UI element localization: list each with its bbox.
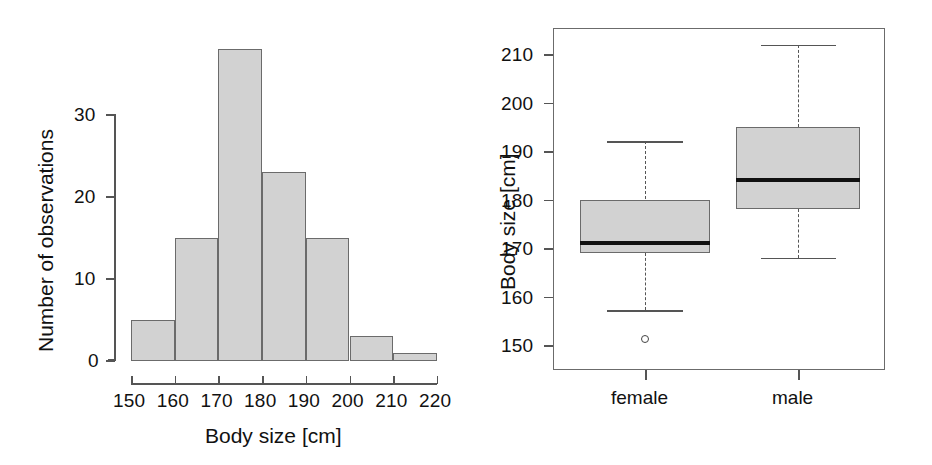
boxplot-y-tick-150 [544,345,553,347]
boxplot-x-tick-male [798,370,800,380]
histogram-x-tick-label-190: 190 [288,390,320,412]
boxplot-panel: Body size [cm] 150 160 170 180 190 200 2… [470,0,932,465]
histogram-bar-150-160 [131,320,175,361]
histogram-y-tick-label-20: 20 [74,186,96,208]
boxplot-female-outlier-point [641,335,649,343]
boxplot-y-tick-label-170: 170 [501,238,533,260]
boxplot-y-tick-190 [544,151,553,153]
histogram-y-tick-20 [106,196,115,198]
histogram-x-tick-190 [306,376,308,384]
boxplot-male-box [736,127,860,209]
histogram-x-tick-150 [131,376,133,384]
histogram-bar-180-190 [262,172,306,361]
histogram-x-tick-label-150: 150 [113,390,145,412]
two-panel-figure: Number of observations 0 10 20 30 [0,0,932,465]
boxplot-male-whisker-cap-upper [761,45,836,47]
histogram-bar-210-220 [393,353,437,361]
boxplot-y-tick-label-180: 180 [501,190,533,212]
boxplot-y-axis-title: Body size [cm] [496,153,520,290]
histogram-x-tick-label-210: 210 [375,390,407,412]
histogram-y-tick-label-10: 10 [74,268,96,290]
boxplot-y-tick-200 [544,103,553,105]
boxplot-y-tick-label-160: 160 [501,287,533,309]
histogram-x-tick-160 [175,376,177,384]
boxplot-male-whisker-lower [798,209,799,258]
histogram-x-tick-label-220: 220 [419,390,451,412]
histogram-x-axis-title: Body size [cm] [205,424,342,448]
histogram-x-tick-label-200: 200 [332,390,364,412]
histogram-x-tick-label-170: 170 [200,390,232,412]
boxplot-y-tick-210 [544,54,553,56]
boxplot-female-median-line [580,241,710,245]
histogram-panel: Number of observations 0 10 20 30 [0,0,470,465]
boxplot-male-median-line [736,178,860,182]
histogram-x-tick-210 [393,376,395,384]
boxplot-x-tick-label-female: female [611,387,668,409]
boxplot-x-tick-label-male: male [772,387,813,409]
boxplot-x-tick-female [645,370,647,380]
histogram-bar-200-210 [350,336,394,361]
histogram-bar-190-200 [306,238,350,361]
histogram-y-tick-10 [106,278,115,280]
histogram-x-tick-220 [437,376,439,384]
boxplot-y-tick-160 [544,297,553,299]
histogram-x-tick-200 [350,376,352,384]
boxplot-female-whisker-lower [645,253,646,310]
histogram-y-tick-0 [106,360,115,362]
boxplot-male-whisker-cap-lower [761,258,836,260]
histogram-y-tick-label-30: 30 [74,104,96,126]
histogram-x-tick-170 [218,376,220,384]
boxplot-y-tick-180 [544,200,553,202]
histogram-x-tick-180 [262,376,264,384]
histogram-y-axis-line [114,114,116,361]
boxplot-female-whisker-cap-lower [607,310,683,312]
histogram-x-tick-label-180: 180 [244,390,276,412]
histogram-bar-170-180 [218,49,262,361]
boxplot-y-tick-label-190: 190 [501,141,533,163]
boxplot-female-whisker-cap-upper [607,141,683,143]
boxplot-y-tick-label-150: 150 [501,335,533,357]
histogram-x-tick-label-160: 160 [157,390,189,412]
boxplot-male-whisker-upper [798,45,799,128]
histogram-x-axis-line [131,383,437,385]
histogram-y-tick-label-0: 0 [88,350,99,372]
histogram-bar-160-170 [175,238,219,361]
boxplot-female-whisker-upper [645,141,646,199]
histogram-y-axis-title: Number of observations [34,129,58,352]
boxplot-y-tick-label-200: 200 [501,93,533,115]
boxplot-y-tick-170 [544,248,553,250]
boxplot-y-tick-label-210: 210 [501,44,533,66]
histogram-y-tick-30 [106,114,115,116]
